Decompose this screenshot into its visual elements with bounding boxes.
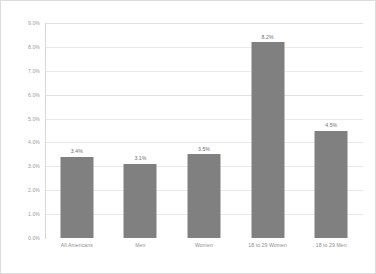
- bar-value-label: 3.1%: [134, 155, 146, 161]
- x-axis-tick-label: 18 to 29 Women: [248, 242, 287, 248]
- x-axis-tick-label: Men: [135, 242, 145, 248]
- y-axis-tick-label: 6.0%: [28, 92, 40, 98]
- bar-value-label: 8.2%: [262, 34, 274, 40]
- bars-layer: 3.4%3.1%3.5%8.2%4.5%: [45, 23, 363, 238]
- bar-group: 3.5%: [172, 23, 236, 238]
- y-axis-tick-label: 3.0%: [28, 163, 40, 169]
- y-axis-tick-label: 9.0%: [28, 20, 40, 26]
- y-axis-tick-label: 7.0%: [28, 68, 40, 74]
- bar: [315, 131, 348, 239]
- bar-group: 3.4%: [45, 23, 109, 238]
- y-axis-tick-label: 4.0%: [28, 139, 40, 145]
- bar-value-label: 3.4%: [71, 148, 83, 154]
- y-axis-tick-label: 5.0%: [28, 116, 40, 122]
- bar-value-label: 4.5%: [325, 122, 337, 128]
- y-axis-tick-label: 2.0%: [28, 187, 40, 193]
- bar-group: 3.1%: [109, 23, 173, 238]
- y-axis-tick-label: 1.0%: [28, 211, 40, 217]
- bar: [187, 154, 220, 238]
- x-axis-labels: All AmericansMenWomen18 to 29 Women18 to…: [45, 242, 363, 256]
- y-axis-tick-label: 8.0%: [28, 44, 40, 50]
- x-axis-tick-label: All Americans: [61, 242, 93, 248]
- y-axis-tick-label: 0.0%: [28, 235, 40, 241]
- x-axis-tick-label: 18 to 29 Men: [316, 242, 347, 248]
- bar-group: 8.2%: [236, 23, 300, 238]
- bar: [124, 164, 157, 238]
- chart-container: 9.0%8.0%7.0%6.0%5.0%4.0%3.0%2.0%1.0%0.0%…: [0, 0, 376, 274]
- bar-value-label: 3.5%: [198, 146, 210, 152]
- bar: [251, 42, 284, 238]
- bar-group: 4.5%: [299, 23, 363, 238]
- x-axis-tick-label: Women: [195, 242, 213, 248]
- bar: [60, 157, 93, 238]
